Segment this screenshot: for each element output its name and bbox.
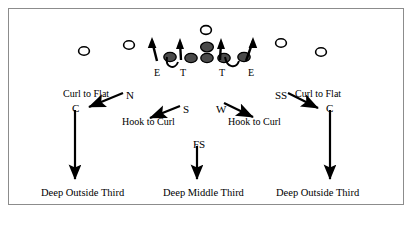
- zone-label-curl-to-flat-right: Curl to Flat: [295, 89, 341, 99]
- offensive-line: [164, 42, 250, 62]
- deep-zone-label-outside-left: Deep Outside Third: [41, 188, 124, 199]
- play-diagram: E T T E N S W C SS C FS Curl to Flat Hoo…: [0, 0, 413, 228]
- db-label-strong-safety: SS: [275, 90, 287, 101]
- zone-label-hook-to-curl-left: Hook to Curl: [122, 117, 175, 127]
- offense-circle: [124, 41, 135, 49]
- offense-circle: [201, 26, 212, 35]
- offense-players: [79, 26, 327, 57]
- dline-label-tackle-right: T: [219, 68, 225, 78]
- dline-label-tackle-left: T: [180, 68, 186, 78]
- offense-circle: [316, 48, 327, 56]
- offense-circle: [276, 39, 287, 47]
- linebacker-label-sam: S: [183, 104, 189, 115]
- oline-circle: [164, 52, 176, 61]
- linebacker-label-will: W: [216, 104, 226, 115]
- zone-label-hook-to-curl-right: Hook to Curl: [228, 117, 281, 127]
- dline-label-end-right: E: [248, 68, 254, 78]
- deep-zone-label-outside-right: Deep Outside Third: [276, 188, 359, 199]
- deep-zone-label-middle: Deep Middle Third: [163, 188, 244, 199]
- db-label-corner-right: C: [326, 103, 333, 114]
- oline-circle: [185, 53, 197, 62]
- dline-label-end-left: E: [154, 68, 160, 78]
- oline-center: [201, 42, 214, 52]
- will-drop-arrow: [224, 103, 253, 117]
- zone-label-curl-to-flat-left: Curl to Flat: [63, 89, 109, 99]
- oline-circle: [201, 53, 213, 62]
- offense-circle: [79, 47, 90, 55]
- db-label-free-safety: FS: [193, 139, 205, 150]
- linebacker-label-nickel: N: [126, 90, 134, 101]
- db-label-corner-left: C: [72, 103, 79, 114]
